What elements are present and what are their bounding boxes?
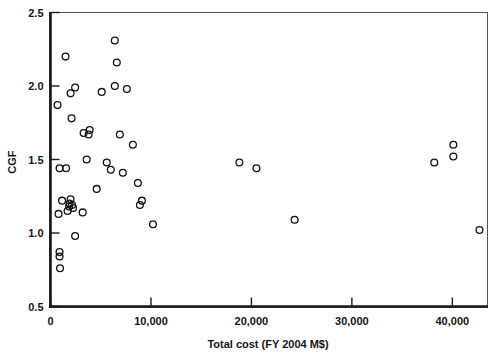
data-point	[79, 209, 86, 216]
y-tick-label: 1.5	[28, 154, 43, 166]
data-point	[68, 115, 75, 122]
data-point	[291, 216, 298, 223]
y-axis-title: CGF	[6, 150, 18, 174]
data-point	[119, 169, 126, 176]
x-tick-label: 20,000	[235, 315, 269, 327]
data-point	[113, 59, 120, 66]
data-point	[93, 186, 100, 193]
data-point	[111, 37, 118, 44]
data-point	[450, 141, 457, 148]
data-point	[111, 83, 118, 90]
data-point	[116, 131, 123, 138]
x-tick-label: 30,000	[335, 315, 369, 327]
data-point	[450, 153, 457, 160]
data-point	[431, 159, 438, 166]
data-point	[57, 265, 64, 272]
data-point	[98, 88, 105, 95]
data-point	[123, 86, 130, 93]
x-axis-ticks: 010,00020,00030,00040,000	[47, 298, 469, 327]
data-points-layer	[54, 37, 483, 272]
data-point	[129, 141, 136, 148]
data-point	[236, 159, 243, 166]
x-tick-label: 10,000	[134, 315, 168, 327]
y-tick-label: 2.5	[28, 7, 43, 19]
data-point	[72, 84, 79, 91]
data-point	[83, 156, 90, 163]
data-point	[103, 159, 110, 166]
scatter-plot-figure: 0.51.01.52.02.5 010,00020,00030,00040,00…	[0, 0, 501, 362]
data-point	[56, 253, 63, 260]
x-tick-label: 40,000	[436, 315, 470, 327]
data-point	[67, 90, 74, 97]
y-tick-label: 0.5	[28, 301, 43, 313]
y-axis-ticks: 0.51.01.52.02.5	[28, 7, 59, 313]
data-point	[72, 233, 79, 240]
data-point	[56, 165, 63, 172]
x-axis-title: Total cost (FY 2004 M$)	[207, 338, 329, 350]
data-point	[62, 53, 69, 60]
data-point	[253, 165, 260, 172]
data-point	[135, 180, 142, 187]
chart-canvas: 0.51.01.52.02.5 010,00020,00030,00040,00…	[0, 0, 501, 362]
data-point	[476, 227, 483, 234]
data-point	[55, 210, 62, 217]
data-point	[63, 165, 70, 172]
y-tick-label: 2.0	[28, 80, 43, 92]
data-point	[150, 221, 157, 228]
data-point	[107, 166, 114, 173]
data-point	[54, 102, 61, 109]
data-point	[59, 197, 66, 204]
plot-frame	[50, 13, 488, 308]
x-tick-label: 0	[47, 315, 53, 327]
y-tick-label: 1.0	[28, 227, 43, 239]
